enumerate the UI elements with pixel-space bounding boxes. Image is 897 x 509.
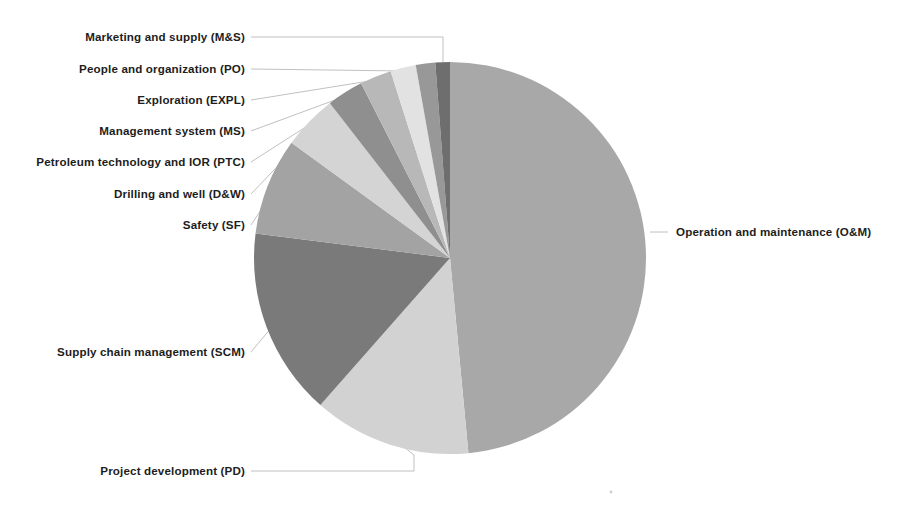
- slice-label-po: People and organization (PO): [79, 62, 245, 75]
- pie-chart-svg: Marketing and supply (M&S)People and org…: [0, 0, 897, 509]
- slice-label-expl: Exploration (EXPL): [137, 93, 245, 106]
- slice-label-ptc: Petroleum technology and IOR (PTC): [36, 155, 245, 168]
- pie-slices-group: [254, 62, 646, 454]
- pie-slice-o-m: [450, 62, 646, 453]
- slice-label-ms: Marketing and supply (M&S): [85, 30, 245, 43]
- slice-label-sf: Safety (SF): [183, 218, 245, 231]
- pie-chart-figure: Marketing and supply (M&S)People and org…: [0, 0, 897, 509]
- slice-label-om: Operation and maintenance (O&M): [676, 225, 871, 238]
- slice-label-pd: Project development (PD): [100, 464, 245, 477]
- slice-label-dw: Drilling and well (D&W): [114, 187, 245, 200]
- leader-line-ms: [251, 37, 443, 70]
- stray-speck: [610, 491, 613, 494]
- slice-label-mgmt: Management system (MS): [99, 124, 245, 137]
- slice-label-scm: Supply chain management (SCM): [57, 345, 245, 358]
